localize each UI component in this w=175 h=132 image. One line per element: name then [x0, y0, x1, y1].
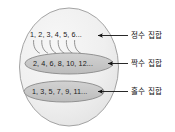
diagram-canvas: 1, 2, 3, 4, 5, 6... 2, 4, 6, 8, 10, 12..… — [0, 0, 175, 132]
odd-set-members: 1, 3, 5, 7, 9, 11... — [32, 87, 87, 96]
callout-label-even-set: 짝수 집합 — [131, 58, 162, 68]
integer-set-members: 1, 2, 3, 4, 5, 6... — [30, 30, 82, 39]
even-set-members: 2, 4, 6, 8, 10, 12... — [33, 59, 93, 68]
set-diagram: 1, 2, 3, 4, 5, 6... 2, 4, 6, 8, 10, 12..… — [0, 0, 175, 132]
callout-label-odd-set: 홀수 집합 — [131, 86, 162, 96]
callout-label-integer-set: 정수 집합 — [131, 30, 162, 40]
